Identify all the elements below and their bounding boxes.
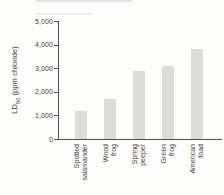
x-axis-label-wood-frog: Woodfrog: [102, 144, 119, 194]
x-axis-label-line: Green: [160, 144, 168, 194]
x-axis-label-spotted-salamander: Spottedsalamander: [73, 144, 90, 194]
y-tick-label-1-000: 1,000: [20, 111, 53, 120]
x-axis-label-line: Spotted: [73, 144, 81, 194]
x-axis-label-line: American: [189, 144, 197, 194]
x-axis-label-line: salamander: [81, 144, 89, 194]
x-axis-label-line: Wood: [102, 144, 110, 194]
y-tick-label-2-000: 2,000: [20, 87, 53, 96]
x-axis-line: [58, 139, 222, 140]
x-axis-label-line: frog: [110, 144, 118, 194]
ld50-bar-chart: LD50 (ppm chloride) 01,0002,0003,0004,00…: [0, 0, 224, 195]
bar-wood-frog: [104, 99, 116, 139]
y-axis-line: [58, 21, 59, 140]
x-axis-label-spring-peeper: Springpeeper: [131, 144, 148, 194]
y-axis-title-prefix: LD: [10, 104, 19, 114]
bar-american-toad: [191, 49, 203, 140]
bar-spotted-salamander: [75, 111, 87, 139]
y-axis-title-suffix: (ppm chloride): [10, 46, 19, 98]
y-tick-label-5-000: 5,000: [20, 17, 53, 26]
x-axis-label-line: peeper: [139, 144, 147, 194]
x-axis-label-american-toad: Americantoad: [189, 144, 206, 194]
x-axis-label-line: toad: [197, 144, 205, 194]
x-axis-label-line: Spring: [131, 144, 139, 194]
y-tick-label-4-000: 4,000: [20, 40, 53, 49]
x-axis-label-green-frog: Greenfrog: [160, 144, 177, 194]
y-tick-label-0: 0: [20, 135, 53, 144]
scan-artifact-top: [36, 0, 132, 2]
y-tick-label-3-000: 3,000: [20, 64, 53, 73]
y-axis-title-subscript: 50: [15, 98, 21, 104]
bar-spring-peeper: [133, 71, 145, 139]
scan-artifact-small: [36, 13, 92, 15]
x-axis-label-line: frog: [168, 144, 176, 194]
bar-green-frog: [162, 66, 174, 139]
y-axis-title: LD50 (ppm chloride): [9, 21, 22, 139]
